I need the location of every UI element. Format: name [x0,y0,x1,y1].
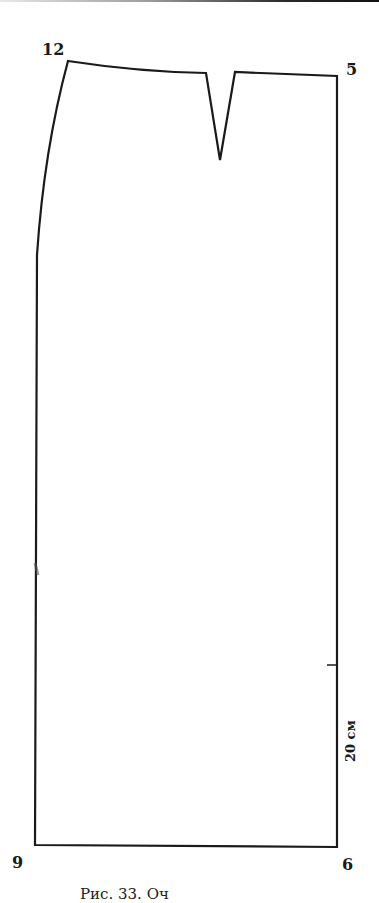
point-label-5: 5 [346,60,357,79]
scale-label: 20 см [343,720,358,762]
point-label-12: 12 [42,40,64,59]
point-label-9: 9 [12,853,23,872]
pattern-outline [35,61,337,847]
figure-caption: Рис. 33. Оч [80,885,169,903]
point-label-6: 6 [342,855,353,874]
